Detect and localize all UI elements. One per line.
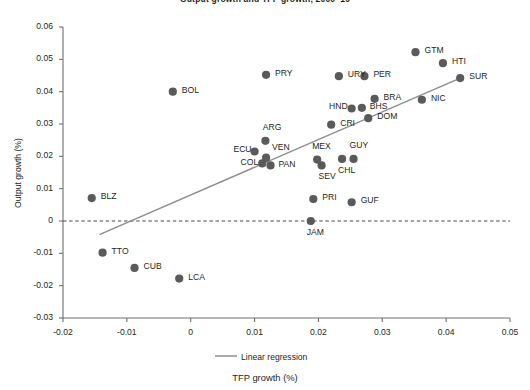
data-point-dom — [364, 114, 372, 122]
x-tick-label: -0.02 — [40, 327, 86, 337]
y-axis-title: Output growth (%) — [13, 103, 23, 243]
point-label-hnd: HND — [329, 101, 348, 111]
point-label-lca: LCA — [188, 272, 205, 282]
data-point-col — [258, 159, 266, 167]
point-label-jam: JAM — [307, 227, 324, 237]
y-tick-label: -0.01 — [13, 247, 53, 257]
point-label-pan: PAN — [279, 159, 296, 169]
data-point-nic — [418, 96, 426, 104]
x-tick-label: 0.03 — [359, 327, 405, 337]
x-tick-label: 0.04 — [423, 327, 469, 337]
data-point-sur — [456, 74, 464, 82]
legend-label: Linear regression — [241, 352, 307, 362]
point-label-cub: CUB — [144, 261, 162, 271]
point-label-sur: SUR — [469, 71, 487, 81]
point-label-arg: ARG — [263, 122, 282, 132]
point-label-per: PER — [373, 69, 391, 79]
y-tick-label: 0.06 — [13, 21, 53, 31]
point-label-cri: CRI — [340, 118, 355, 128]
data-point-pan — [266, 161, 274, 169]
data-point-gtm — [411, 48, 419, 56]
x-tick-label: 0.05 — [487, 327, 530, 337]
data-point-bol — [169, 88, 177, 96]
point-label-bra: BRA — [384, 92, 402, 102]
point-label-hti: HTI — [452, 56, 466, 66]
point-label-pry: PRY — [275, 68, 293, 78]
plot-area: 0.060.050.040.030.020.010-0.01-0.02-0.03… — [0, 0, 530, 390]
data-point-guy — [349, 155, 357, 163]
y-tick-label: -0.03 — [13, 312, 53, 322]
point-label-guf: GUF — [361, 195, 379, 205]
data-point-hti — [439, 59, 447, 67]
x-tick-label: 0.02 — [295, 327, 341, 337]
point-label-dom: DOM — [377, 111, 397, 121]
data-point-ecu — [250, 147, 258, 155]
x-axis-title: TFP growth (%) — [0, 372, 530, 383]
data-point-arg — [261, 137, 269, 145]
x-tick-label: 0 — [168, 327, 214, 337]
x-tick-label: 0.01 — [232, 327, 278, 337]
data-point-sev — [318, 161, 326, 169]
point-label-nic: NIC — [431, 93, 446, 103]
data-point-bhs — [358, 104, 366, 112]
point-label-ecu: ECU — [233, 144, 251, 154]
chart-figure: Output growth and TFP growth, 2000–10 0.… — [0, 0, 530, 390]
data-point-lca — [175, 274, 183, 282]
data-points — [88, 48, 465, 283]
point-label-guy: GUY — [350, 140, 369, 150]
x-tick-label: -0.01 — [104, 327, 150, 337]
point-label-blz: BLZ — [101, 191, 117, 201]
point-label-mex: MEX — [312, 141, 331, 151]
point-label-col: COL — [241, 157, 259, 167]
point-label-bol: BOL — [182, 85, 199, 95]
point-label-pri: PRI — [322, 192, 336, 202]
data-point-jam — [307, 217, 315, 225]
point-label-sev: SEV — [319, 171, 336, 181]
y-tick-label: 0.04 — [13, 86, 53, 96]
point-label-gtm: GTM — [424, 45, 443, 55]
point-label-bhs: BHS — [370, 101, 388, 111]
point-label-ury: URY — [348, 69, 366, 79]
y-tick-label: -0.02 — [13, 280, 53, 290]
point-label-tto: TTO — [112, 246, 129, 256]
y-tick-label: 0.05 — [13, 53, 53, 63]
linear-regression-line — [99, 78, 460, 234]
data-point-blz — [88, 194, 96, 202]
data-point-ury — [335, 72, 343, 80]
data-point-guf — [348, 198, 356, 206]
data-point-pri — [309, 195, 317, 203]
data-point-hnd — [348, 104, 356, 112]
data-point-chl — [338, 155, 346, 163]
data-point-cub — [130, 264, 138, 272]
data-point-tto — [98, 249, 106, 257]
data-point-pry — [262, 71, 270, 79]
data-point-cri — [327, 121, 335, 129]
point-label-chl: CHL — [338, 165, 355, 175]
point-label-ven: VEN — [272, 142, 290, 152]
